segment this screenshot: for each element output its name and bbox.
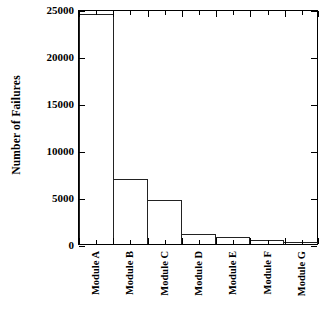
y-axis-title-text: Number of Failures	[10, 75, 22, 175]
x-tick-cell: Module F	[249, 249, 283, 315]
plot-area	[78, 10, 318, 245]
y-tick-label: 25000	[47, 4, 75, 16]
x-tick-mark-minor	[302, 240, 303, 244]
x-tick-label: Module G	[295, 251, 306, 296]
x-tick-mark	[285, 11, 286, 17]
x-tick-label: Module F	[261, 251, 272, 294]
x-tick-cell: Module E	[215, 249, 249, 315]
x-tick-mark	[250, 238, 251, 244]
x-axis-tick-labels: Module AModule BModule CModule DModule E…	[78, 249, 318, 315]
y-tick-label: 10000	[47, 145, 75, 157]
x-tick-mark	[182, 238, 183, 244]
x-tick-label: Module D	[192, 251, 203, 296]
x-tick-mark	[182, 11, 183, 17]
x-tick-mark-minor	[165, 240, 166, 244]
y-tick-mark	[311, 152, 317, 153]
x-tick-cell: Module G	[284, 249, 318, 315]
y-tick-mark	[79, 105, 85, 106]
x-tick-mark	[79, 238, 80, 244]
x-tick-mark-minor	[199, 240, 200, 244]
x-tick-mark-minor	[233, 240, 234, 244]
y-axis-title: Number of Failures	[6, 0, 26, 250]
x-tick-label: Module B	[124, 251, 135, 295]
bar	[249, 240, 284, 244]
y-tick-mark	[311, 246, 317, 247]
x-tick-mark-minor	[130, 240, 131, 244]
x-tick-label: Module E	[227, 251, 238, 295]
x-tick-mark-minor	[130, 11, 131, 15]
x-tick-mark	[148, 238, 149, 244]
y-tick-label: 20000	[47, 51, 75, 63]
bar-series	[79, 11, 317, 244]
bar	[113, 179, 148, 244]
bar-chart-figure: Number of Failures 050001000015000200002…	[0, 0, 325, 317]
x-tick-cell: Module B	[112, 249, 146, 315]
x-tick-cell: Module A	[78, 249, 112, 315]
x-tick-mark	[318, 11, 319, 17]
x-tick-mark	[216, 238, 217, 244]
y-tick-label: 15000	[47, 98, 75, 110]
x-tick-cell: Module C	[147, 249, 181, 315]
x-tick-mark	[318, 238, 319, 244]
bar	[147, 200, 182, 244]
x-tick-mark	[216, 11, 217, 17]
x-tick-mark-minor	[165, 11, 166, 15]
y-axis-tick-labels: 0500010000150002000025000	[24, 0, 74, 250]
y-tick-label: 0	[69, 239, 75, 251]
y-tick-mark	[79, 199, 85, 200]
x-tick-mark-minor	[268, 11, 269, 15]
y-tick-mark	[311, 105, 317, 106]
x-tick-mark-minor	[268, 240, 269, 244]
y-tick-mark	[79, 246, 85, 247]
x-tick-label: Module A	[90, 251, 101, 295]
x-tick-mark	[285, 238, 286, 244]
x-tick-mark	[148, 11, 149, 17]
x-tick-mark-minor	[233, 11, 234, 15]
x-tick-mark	[113, 238, 114, 244]
x-tick-mark-minor	[302, 11, 303, 15]
y-tick-mark	[311, 11, 317, 12]
bar	[283, 242, 318, 244]
x-tick-mark-minor	[96, 240, 97, 244]
y-tick-mark	[79, 152, 85, 153]
x-tick-mark-minor	[199, 11, 200, 15]
y-tick-label: 5000	[52, 192, 74, 204]
x-tick-cell: Module D	[181, 249, 215, 315]
bar	[79, 14, 114, 244]
x-tick-mark-minor	[96, 11, 97, 15]
y-tick-mark	[311, 199, 317, 200]
y-tick-mark	[311, 58, 317, 59]
x-tick-mark	[250, 11, 251, 17]
y-tick-mark	[79, 58, 85, 59]
x-tick-mark	[79, 11, 80, 17]
x-tick-label: Module C	[158, 251, 169, 296]
x-tick-mark	[113, 11, 114, 17]
